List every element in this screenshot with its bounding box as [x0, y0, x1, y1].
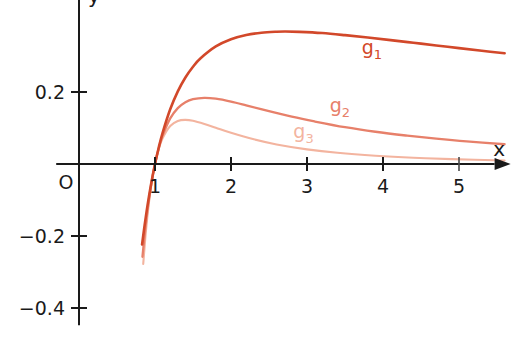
- y-tick-label--0.2: −0.2: [19, 225, 65, 247]
- y-axis-name: y: [88, 0, 100, 8]
- line-chart-svg: 123450.2−0.2−0.4Oxyg1g2g3: [0, 0, 521, 341]
- curve-label-g_1: g1: [362, 36, 382, 62]
- curve-label-base-g_1: g: [362, 36, 374, 58]
- curve-label-sub-g_1: 1: [374, 47, 382, 62]
- x-tick-label-2: 2: [225, 175, 237, 197]
- curve-label-g_3: g3: [293, 120, 313, 146]
- y-tick-label-0.2: 0.2: [35, 81, 65, 103]
- x-tick-label-1: 1: [149, 175, 161, 197]
- origin-label: O: [59, 171, 74, 193]
- curve-label-base-g_2: g: [330, 94, 342, 116]
- x-tick-label-5: 5: [453, 175, 465, 197]
- axes-layer: [56, 0, 510, 325]
- x-tick-label-4: 4: [377, 175, 389, 197]
- x-tick-label-3: 3: [301, 175, 313, 197]
- curves-layer: [142, 32, 505, 264]
- x-axis-name: x: [493, 137, 505, 161]
- curve-g_1: [142, 32, 505, 245]
- y-tick-label--0.4: −0.4: [19, 297, 65, 319]
- curve-label-g_2: g2: [330, 94, 350, 120]
- chart-figure: 123450.2−0.2−0.4Oxyg1g2g3: [0, 0, 521, 341]
- curve-label-sub-g_3: 3: [305, 131, 313, 146]
- tick-marks-layer: [71, 92, 459, 308]
- curve-label-base-g_3: g: [293, 120, 305, 142]
- curve-g_3: [143, 120, 504, 264]
- curve-label-sub-g_2: 2: [342, 105, 350, 120]
